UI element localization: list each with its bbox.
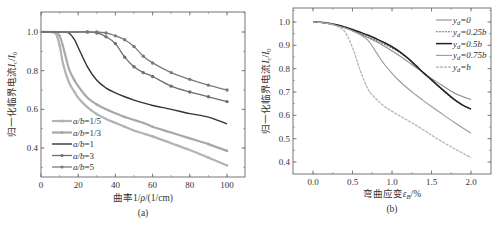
- series-marker: [151, 125, 154, 128]
- legend-label: a/b=1/5: [73, 116, 102, 126]
- series-marker: [73, 91, 76, 94]
- series-marker: [132, 45, 135, 48]
- series-group: [40, 30, 229, 166]
- legend-marker: [60, 165, 63, 168]
- series-marker: [207, 156, 210, 159]
- chart-panel-b: 0.00.51.01.52.00.40.50.60.70.80.91.0yd=0…: [251, 0, 502, 228]
- series-marker: [58, 35, 61, 38]
- x-axis-title: 弯曲应变εB/%: [363, 188, 421, 200]
- y-tick-label: 0.6: [27, 104, 39, 114]
- x-tick-label: 1.0: [386, 177, 398, 187]
- series-marker: [170, 71, 173, 74]
- legend-marker: [60, 154, 63, 157]
- series-marker: [114, 34, 117, 37]
- x-tick-label: 60: [148, 180, 158, 190]
- chart-a-svg: 0204060801000.40.60.81.0a/b=1/5a/b=1/3a/…: [0, 0, 251, 228]
- legend-label: a/b=3: [73, 151, 95, 161]
- y-tick-label: 0.5: [279, 134, 291, 144]
- x-tick-label: 2.0: [465, 177, 477, 187]
- series-marker: [58, 44, 61, 47]
- series-marker: [207, 83, 210, 86]
- series-line-5: [313, 22, 471, 158]
- series-marker: [104, 35, 107, 38]
- series-line-4: [313, 22, 471, 133]
- series-marker: [114, 42, 117, 45]
- x-tick-label: 0: [39, 180, 44, 190]
- legend: yd=0yd=0.25byd=0.5byd=0.75byd=b: [436, 15, 487, 73]
- series-marker: [104, 31, 107, 34]
- y-tick-label: 0.6: [279, 110, 291, 120]
- series-marker: [151, 75, 154, 78]
- x-tick-label: 20: [74, 180, 84, 190]
- series-group: [313, 22, 471, 158]
- series-marker: [132, 65, 135, 68]
- legend-label: yd=0: [452, 15, 471, 26]
- legend-label: yd=0.25b: [452, 27, 487, 38]
- x-tick-label: 0.5: [347, 177, 359, 187]
- series-marker: [123, 55, 126, 58]
- series-marker: [188, 78, 191, 81]
- x-tick-label: 100: [220, 180, 234, 190]
- y-tick-label: 0.4: [279, 157, 291, 167]
- series-marker: [151, 61, 154, 64]
- chart-b-svg: 0.00.51.01.52.00.40.50.60.70.80.91.0yd=0…: [251, 0, 502, 228]
- legend-label: a/b=1: [73, 139, 94, 149]
- series-marker: [226, 150, 229, 153]
- series-line-2: [313, 22, 471, 110]
- y-tick-label: 0.8: [27, 66, 39, 76]
- series-marker: [96, 103, 99, 106]
- panel-label: (b): [386, 204, 397, 215]
- series-marker: [207, 95, 210, 98]
- series-marker: [151, 135, 154, 138]
- series-marker: [95, 30, 98, 33]
- series-marker: [123, 116, 126, 119]
- series-marker: [225, 100, 228, 103]
- series-line-1: [41, 32, 227, 166]
- legend-label: a/b=1/3: [73, 128, 102, 138]
- x-tick-label: 0.0: [307, 177, 319, 187]
- legend-label: a/b=5: [73, 162, 95, 172]
- chart-panel-a: 0204060801000.40.60.81.0a/b=1/5a/b=1/3a/…: [0, 0, 251, 228]
- series-marker: [86, 30, 89, 33]
- panel-label: (a): [138, 208, 149, 219]
- legend-label: yd=0.75b: [452, 50, 487, 61]
- series-marker: [142, 71, 145, 74]
- y-tick-label: 0.4: [27, 143, 39, 153]
- legend: a/b=1/5a/b=1/3a/b=1a/b=3a/b=5: [52, 116, 102, 172]
- series-marker: [142, 54, 145, 57]
- legend-marker: [60, 131, 63, 134]
- legend-label: yd=0.5b: [452, 39, 483, 50]
- series-marker: [188, 90, 191, 93]
- series-marker: [207, 143, 210, 146]
- x-tick-label: 1.5: [426, 177, 438, 187]
- series-line-1: [313, 22, 471, 99]
- y-axis-title: 归一化临界电流Ic/I0: [260, 48, 272, 133]
- x-axis-title: 曲率1/ρ/(1/cm): [113, 192, 173, 204]
- y-axis-title: 归一化临界电流Ic/I0: [6, 52, 18, 137]
- series-marker: [73, 79, 76, 82]
- y-tick-label: 1.0: [27, 27, 39, 37]
- series-marker: [123, 125, 126, 128]
- x-tick-label: 80: [185, 180, 195, 190]
- series-marker: [170, 84, 173, 87]
- x-tick-label: 40: [111, 180, 121, 190]
- y-tick-label: 0.8: [279, 64, 291, 74]
- y-tick-label: 1.0: [279, 17, 291, 27]
- y-tick-label: 0.9: [279, 40, 291, 50]
- legend-label: yd=b: [452, 62, 471, 73]
- series-line-3: [313, 22, 471, 109]
- series-marker: [225, 88, 228, 91]
- legend-marker: [60, 119, 63, 122]
- series-marker: [123, 38, 126, 41]
- series-marker: [226, 164, 229, 167]
- y-tick-label: 0.7: [279, 87, 291, 97]
